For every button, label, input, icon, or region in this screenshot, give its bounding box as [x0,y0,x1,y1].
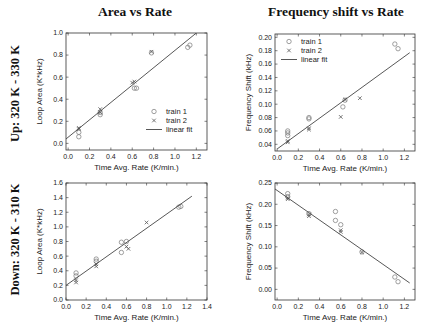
x-tick-label: 0.6 [336,154,346,161]
marker-train1-icon [341,105,345,109]
y-tick-label: 0.8 [53,238,63,245]
marker-train2-icon [287,49,291,53]
x-tick-label: 0.8 [357,154,367,161]
y-tick-label: 0.4 [53,267,63,274]
y-tick-label: 0.8 [53,51,63,58]
x-tick-label: 0.8 [142,303,152,310]
marker-train1-icon [393,275,397,279]
plot-frame [275,183,415,300]
y-axis-label: Frequency Shift (kHz) [244,53,253,131]
y-axis-label: Loop Area (K*kHz) [35,58,44,125]
y-tick-label: 0.18 [258,47,272,54]
chart-area-up: 0.00.20.40.60.81.01.20.00.20.40.60.81.0T… [35,29,207,172]
x-tick-label: 0.6 [122,303,132,310]
y-tick-label: 0.05 [258,264,272,271]
y-tick-label: 0.2 [53,118,63,125]
marker-train2-icon [127,247,131,251]
y-tick-label: 0.15 [258,222,272,229]
legend-entry: train 1 [301,37,322,46]
chart-area-down: 0.00.20.40.60.81.01.21.40.00.20.40.60.81… [35,179,212,322]
marker-train1-icon [396,47,400,51]
x-tick-label: 0.8 [149,153,159,160]
marker-train1-icon [393,42,397,46]
x-tick-label: 0.4 [101,303,111,310]
x-tick-label: 0.2 [81,303,91,310]
y-tick-label: 0.0 [53,296,63,303]
x-tick-label: 0.2 [293,154,303,161]
x-tick-label: 1.0 [378,303,388,310]
marker-train2-icon [145,221,149,225]
marker-train1-icon [74,271,78,275]
legend-entry: train 1 [166,107,187,116]
x-tick-label: 1.0 [162,303,172,310]
x-tick-label: 0.4 [315,154,325,161]
marker-train1-icon [333,218,337,222]
x-tick-label: 1.0 [378,154,388,161]
y-tick-label: 0.04 [258,141,272,148]
y-tick-label: 0.2 [53,282,63,289]
x-tick-label: 1.2 [182,303,192,310]
y-tick-label: 0.20 [258,34,272,41]
y-tick-label: 1.4 [53,194,63,201]
marker-train1-icon [152,109,156,113]
y-tick-label: 0.00 [258,286,272,293]
x-axis-label: Time Avg. Rate (K/min.) [94,163,179,172]
y-axis-label: Loop Area (K*kHz) [35,208,44,275]
x-axis-label: Time Avg. Rate (K/min.) [303,164,388,173]
linear-fit-line [66,196,192,285]
y-tick-label: 0.08 [258,114,272,121]
x-tick-label: 0.2 [293,303,303,310]
legend: train 1train 2linear fit [146,107,193,134]
y-tick-label: 0.25 [258,179,272,186]
x-tick-label: 0.0 [272,303,282,310]
y-tick-label: 0.12 [258,87,272,94]
marker-train1-icon [119,240,123,244]
y-tick-label: 1.0 [53,29,63,36]
y-axis-label: Frequency Shift (kHz) [244,202,253,280]
y-tick-label: 0.10 [258,101,272,108]
x-tick-label: 0.0 [61,303,71,310]
marker-train2-icon [339,115,343,119]
legend-entry: train 2 [166,116,187,125]
y-tick-label: 0.4 [53,96,63,103]
y-tick-label: 1.0 [53,223,63,230]
x-tick-label: 1.4 [202,303,212,310]
legend-entry: linear fit [301,55,328,64]
x-tick-label: 0.4 [106,153,116,160]
marker-train1-icon [119,250,123,254]
marker-train1-icon [339,222,343,226]
chart-grid: 0.00.20.40.60.81.01.20.00.20.40.60.81.0T… [0,0,430,332]
y-tick-label: 0.6 [53,253,63,260]
marker-train1-icon [396,280,400,284]
y-tick-label: 1.2 [53,209,63,216]
x-tick-label: 1.2 [191,153,201,160]
plot-frame [275,34,415,151]
marker-train2-icon [358,96,362,100]
chart-freq-down: 0.00.20.40.60.81.01.20.000.050.100.150.2… [244,179,415,322]
y-tick-label: 0.16 [258,60,272,67]
linear-fit-line [277,53,410,149]
legend: train 1train 2linear fit [281,37,328,64]
y-tick-label: 0.6 [53,74,63,81]
x-axis-label: Time Avg. Rate (K/min.) [303,313,388,322]
y-tick-label: 0.10 [258,243,272,250]
x-tick-label: 0.4 [315,303,325,310]
x-tick-label: 1.2 [400,303,410,310]
y-tick-label: 0.20 [258,201,272,208]
x-axis-label: Time Avg. Rate (K/min.) [94,313,179,322]
marker-train1-icon [287,39,291,43]
y-tick-label: 0.14 [258,74,272,81]
legend-entry: train 2 [301,46,322,55]
marker-train2-icon [152,119,156,123]
x-tick-label: 1.2 [400,154,410,161]
y-tick-label: 0.06 [258,127,272,134]
x-tick-label: 0.6 [127,153,137,160]
linear-fit-line [275,189,410,283]
x-tick-label: 0.0 [63,153,73,160]
legend-entry: linear fit [166,125,193,134]
y-tick-label: 0.0 [53,140,63,147]
marker-train1-icon [333,209,337,213]
y-tick-label: 1.6 [53,179,63,186]
x-tick-label: 0.6 [336,303,346,310]
x-tick-label: 1.0 [170,153,180,160]
